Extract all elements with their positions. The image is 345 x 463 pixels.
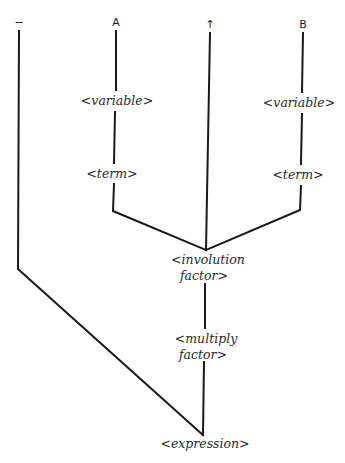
edge-term-right-to-involution	[206, 186, 301, 250]
edge-arrow-to-involution	[206, 33, 210, 250]
node-expression: <expression>	[160, 436, 249, 451]
node-involution-factor-line1: <involution	[171, 252, 245, 267]
edge-multiply-to-expression	[203, 362, 204, 435]
node-variable-left: <variable>	[81, 93, 153, 108]
parse-tree-diagram: − A ↑ B <variable> <term> <variable> <te…	[0, 0, 345, 463]
node-term-left: <term>	[86, 166, 137, 181]
node-multiply-factor-line1: <multiply	[175, 331, 238, 346]
edge-variable-to-term-right	[301, 114, 302, 164]
edge-term-left-to-involution	[113, 184, 206, 250]
terminal-A: A	[112, 16, 120, 29]
node-term-right: <term>	[272, 167, 323, 182]
edge-B-to-variable	[302, 33, 303, 92]
edge-minus-to-expression	[18, 31, 203, 435]
terminal-minus: −	[14, 16, 23, 29]
edge-variable-to-term-left	[114, 112, 115, 163]
terminal-B: B	[299, 18, 307, 31]
node-multiply-factor-line2: factor>	[178, 347, 227, 362]
terminal-up-arrow: ↑	[205, 18, 214, 31]
node-involution-factor-line2: factor>	[179, 268, 228, 283]
node-variable-right: <variable>	[263, 95, 335, 110]
